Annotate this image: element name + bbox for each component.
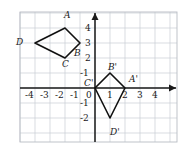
y-tick-label-3: 3 — [85, 39, 91, 48]
coordinate-plane-figure: -4 -3 -2 -1 0 1 2 3 4 4 3 2 -1 -1 -2 A B… — [0, 0, 193, 149]
y-tick-label-2: 2 — [85, 54, 91, 63]
x-tick-label-3: 3 — [137, 91, 143, 100]
x-tick-label--2: -2 — [55, 91, 64, 100]
y-tick-label-4: 4 — [85, 24, 91, 33]
y-tick-label--1: -1 — [80, 99, 89, 108]
x-tick-label-1: 1 — [107, 91, 113, 100]
x-tick-label--4: -4 — [25, 91, 34, 100]
vertex-label-a-prime: A' — [129, 75, 138, 84]
vertex-label-b: B — [74, 49, 81, 58]
x-tick-label-4: 4 — [152, 91, 158, 100]
plot-background — [0, 0, 193, 149]
coordinate-plane-svg — [0, 0, 193, 149]
vertex-label-d-prime: D' — [110, 128, 120, 137]
x-tick-label--3: -3 — [40, 91, 49, 100]
vertex-label-c: C — [62, 60, 69, 69]
vertex-label-d: D — [16, 38, 23, 47]
y-tick-label-1: -1 — [80, 69, 89, 78]
x-tick-label--1: -1 — [70, 91, 79, 100]
vertex-label-a: A — [64, 11, 71, 20]
vertex-label-c-prime: C' — [84, 79, 93, 88]
vertex-label-b-prime: B' — [108, 63, 117, 72]
y-tick-label--2: -2 — [80, 114, 89, 123]
x-tick-label-2: 2 — [122, 91, 128, 100]
